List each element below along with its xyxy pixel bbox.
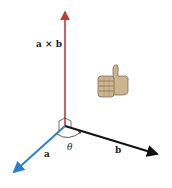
b-label: b <box>115 145 121 155</box>
a-label: a <box>44 149 50 159</box>
angle-arc <box>57 132 81 138</box>
cross-label: a × b <box>36 39 62 49</box>
thumbs-up-icon <box>98 65 128 97</box>
theta-label: θ <box>67 142 73 152</box>
cross-product-diagram: a × b a θ b <box>0 0 172 188</box>
vector-b <box>65 126 157 154</box>
vector-a <box>14 126 65 172</box>
